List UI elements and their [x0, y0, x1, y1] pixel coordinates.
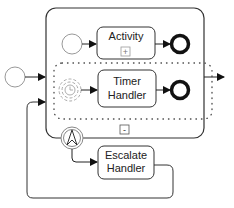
escalate-handler-label-line2: Handler [107, 162, 146, 174]
bpmn-diagram: Activity + Timer Handler - Escalate Hand… [0, 0, 234, 208]
escalate-handler-label-line1: Escalate [105, 149, 147, 161]
escalation-boundary-event-icon[interactable] [61, 127, 83, 149]
expand-marker-label: + [123, 47, 128, 57]
timer-handler-label-line1: Timer [113, 75, 141, 87]
inner-start-event-icon[interactable] [62, 34, 82, 54]
activity-end-event-icon[interactable] [172, 36, 189, 53]
timer-start-event-icon[interactable] [59, 79, 81, 101]
activity-label: Activity [109, 30, 144, 42]
flow-escalation-to-handler [72, 149, 97, 162]
timer-handler-label-line2: Handler [108, 89, 147, 101]
timer-end-event-icon[interactable] [172, 82, 189, 99]
collapse-marker-label: - [123, 125, 126, 135]
outer-start-event-icon[interactable] [5, 67, 25, 87]
